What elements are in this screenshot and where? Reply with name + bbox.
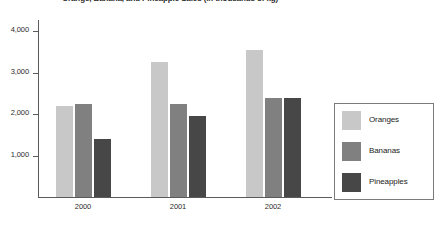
y-axis-tick: 3,000 bbox=[33, 73, 39, 74]
legend-label-oranges: Oranges bbox=[369, 115, 399, 124]
y-axis-tick: 4,000 bbox=[33, 31, 39, 32]
chart-legend: OrangesBananasPineapples bbox=[334, 103, 434, 200]
bar-oranges-2000[interactable] bbox=[56, 106, 73, 197]
y-axis-tick: 2,000 bbox=[33, 114, 39, 115]
bar-oranges-2001[interactable] bbox=[151, 62, 168, 197]
legend-label-pineapples: Pineapples bbox=[369, 177, 408, 186]
plot-area: 1,0002,0003,0004,000 200020012002 bbox=[38, 20, 332, 198]
legend-swatch-pineapples bbox=[342, 173, 361, 192]
legend-swatch-bananas bbox=[342, 142, 361, 161]
bar-pineapples-2000[interactable] bbox=[94, 139, 111, 197]
legend-item-oranges[interactable]: Oranges bbox=[342, 111, 430, 131]
legend-label-bananas: Bananas bbox=[369, 146, 400, 155]
y-axis-tick-label: 1,000 bbox=[11, 150, 29, 159]
y-axis-tick: 1,000 bbox=[33, 156, 39, 157]
x-axis-label-2002: 2002 bbox=[243, 202, 303, 211]
x-axis-label-2000: 2000 bbox=[53, 202, 113, 211]
legend-item-pineapples[interactable]: Pineapples bbox=[342, 173, 430, 193]
y-axis-tick-label: 3,000 bbox=[11, 67, 29, 76]
bar-bananas-2000[interactable] bbox=[75, 104, 92, 197]
bar-pineapples-2002[interactable] bbox=[284, 98, 301, 197]
y-axis-tick-label: 4,000 bbox=[11, 25, 29, 34]
bar-bananas-2001[interactable] bbox=[170, 104, 187, 197]
legend-swatch-oranges bbox=[342, 111, 361, 130]
x-axis-line bbox=[38, 197, 332, 198]
bar-bananas-2002[interactable] bbox=[265, 98, 282, 197]
y-axis-tick-label: 2,000 bbox=[11, 108, 29, 117]
bar-oranges-2002[interactable] bbox=[246, 50, 263, 197]
bar-pineapples-2001[interactable] bbox=[189, 116, 206, 197]
x-axis-label-2001: 2001 bbox=[148, 202, 208, 211]
y-axis-line bbox=[38, 20, 39, 198]
chart-title: Orange, Banana, and Pineapple Sales (in … bbox=[0, 0, 340, 3]
legend-item-bananas[interactable]: Bananas bbox=[342, 142, 430, 162]
